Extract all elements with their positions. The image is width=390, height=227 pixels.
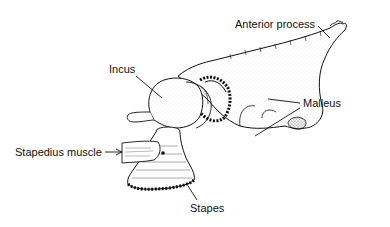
label-incus: Incus [109, 63, 135, 75]
incus-bone [127, 78, 211, 128]
malleus-bone [178, 21, 346, 129]
label-anterior-process: Anterior process [235, 18, 315, 30]
label-stapedius-muscle: Stapedius muscle [15, 146, 102, 158]
label-stapes: Stapes [190, 202, 224, 214]
ossicles-diagram [0, 0, 390, 227]
stapedius-muscle-shape [122, 141, 160, 163]
label-malleus: Malleus [303, 97, 341, 109]
